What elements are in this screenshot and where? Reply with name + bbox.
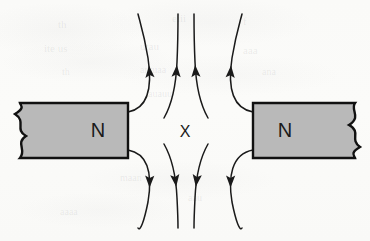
- neutral-point-marker: X: [180, 123, 191, 140]
- magnet-pole-label: N: [278, 119, 292, 141]
- right-magnet: N: [253, 103, 360, 158]
- field-line-down: [230, 150, 253, 229]
- magnetic-field-diagram: NN X: [0, 0, 370, 241]
- field-line-up: [230, 14, 253, 112]
- left-magnet: N: [15, 103, 128, 158]
- magnet-body: [253, 103, 360, 158]
- annotations-group: X: [180, 123, 191, 140]
- magnet-body: [15, 103, 128, 158]
- field-line-up: [128, 14, 150, 112]
- magnet-pole-label: N: [91, 119, 105, 141]
- field-lines-group: [128, 14, 253, 229]
- figure-canvas: theiiifite usutauaaathantuaaanaauauumaan…: [0, 0, 370, 241]
- field-line-up: [194, 14, 208, 118]
- field-line-down: [128, 150, 150, 229]
- field-line-up: [164, 14, 178, 118]
